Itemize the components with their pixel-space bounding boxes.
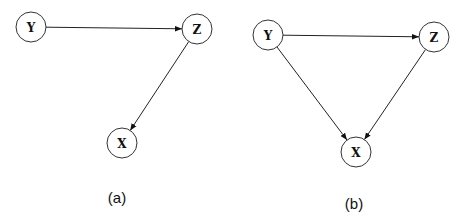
diagram-canvas: Y Z X (a) Y Z X (b) (0, 0, 465, 219)
diagram-b: Y Z X (b) (253, 20, 449, 212)
node-b-y: Y (253, 20, 283, 50)
node-label: Z (193, 23, 202, 37)
node-label: Y (26, 21, 36, 35)
node-a-x: X (107, 128, 137, 158)
node-a-z: Z (182, 14, 212, 44)
node-b-x: X (341, 137, 371, 167)
edge-a-z-to-x (130, 42, 189, 131)
edge-b-y-to-x (277, 47, 347, 140)
edge-b-z-to-x (364, 49, 425, 139)
edge-b-y-to-z (283, 35, 419, 37)
node-label: X (351, 146, 361, 160)
node-a-y: Y (16, 12, 46, 42)
diagram-a: Y Z X (a) (16, 12, 212, 206)
node-label: X (117, 137, 127, 151)
edge-a-y-to-z (46, 27, 182, 29)
node-label: Y (263, 29, 273, 43)
node-b-z: Z (419, 22, 449, 52)
caption-a: (a) (108, 189, 126, 206)
node-label: Z (430, 31, 439, 45)
caption-b: (b) (345, 195, 363, 212)
